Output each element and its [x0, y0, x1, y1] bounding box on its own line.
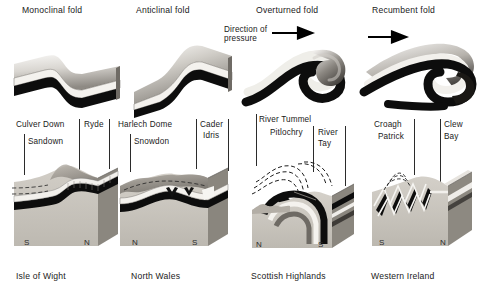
label-clew: Clew — [444, 120, 463, 130]
fold-title-monoclinal: Monoclinal fold — [22, 6, 82, 16]
label-river: River — [318, 128, 338, 138]
block-diagram-western-ireland — [370, 152, 482, 258]
fold-title-overturned: Overturned fold — [256, 6, 318, 16]
label-sandown: Sandown — [28, 137, 63, 147]
label-croagh: Croagh — [374, 120, 402, 130]
compass-north-scottish-highlands: N — [256, 240, 262, 249]
block-diagram-scottish-highlands — [250, 148, 370, 258]
diagram-canvas: Monoclinal fold Anticlinal fold Overturn… — [0, 0, 482, 292]
compass-south-north-wales: S — [192, 238, 198, 247]
compass-north-north-wales: N — [132, 238, 138, 247]
compass-south-isle-of-wight: S — [24, 238, 30, 247]
fold-title-anticlinal: Anticlinal fold — [136, 6, 190, 16]
compass-north-western-ireland: N — [440, 238, 446, 247]
label-bay: Bay — [444, 132, 459, 142]
compass-north-isle-of-wight: N — [84, 238, 90, 247]
label-river-tummel: River Tummel — [259, 115, 311, 125]
caption-scottish-highlands: Scottish Highlands — [251, 272, 326, 282]
fold-block-monoclinal — [12, 34, 124, 112]
fold-block-anticlinal — [128, 30, 240, 112]
caption-north-wales: North Wales — [131, 272, 180, 282]
label-cader: Cader — [200, 120, 223, 130]
label-culver-down: Culver Down — [16, 120, 65, 130]
label-idris: Idris — [203, 131, 219, 141]
label-patrick: Patrick — [378, 132, 404, 142]
caption-isle-of-wight: Isle of Wight — [16, 272, 66, 282]
caption-western-ireland: Western Ireland — [371, 272, 435, 282]
fold-block-recumbent — [358, 28, 482, 112]
label-ryde: Ryde — [84, 120, 104, 130]
label-pitlochry: Pitlochry — [270, 128, 303, 138]
fold-block-overturned — [244, 32, 364, 114]
label-snowdon: Snowdon — [134, 137, 169, 147]
compass-south-western-ireland: S — [379, 238, 385, 247]
compass-south-scottish-highlands: S — [318, 240, 324, 249]
fold-title-recumbent: Recumbent fold — [372, 6, 435, 16]
label-harlech-dome: Harlech Dome — [118, 120, 172, 130]
